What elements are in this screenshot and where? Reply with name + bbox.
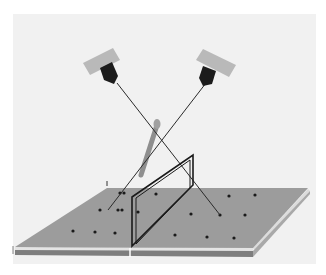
- marker: [154, 192, 157, 195]
- marker: [227, 194, 230, 197]
- marker: [98, 208, 101, 211]
- marker: [116, 208, 119, 211]
- marker: [232, 236, 235, 239]
- marker: [205, 235, 208, 238]
- marker: [122, 191, 125, 194]
- probe-tip: [154, 119, 161, 129]
- scene-canvas: [0, 0, 326, 275]
- marker: [173, 233, 176, 236]
- marker: [93, 230, 96, 233]
- marker: [120, 208, 123, 211]
- marker: [253, 193, 256, 196]
- marker: [243, 213, 246, 216]
- marker: [71, 229, 74, 232]
- marker: [189, 212, 192, 215]
- marker: [136, 210, 139, 213]
- marker: [113, 231, 116, 234]
